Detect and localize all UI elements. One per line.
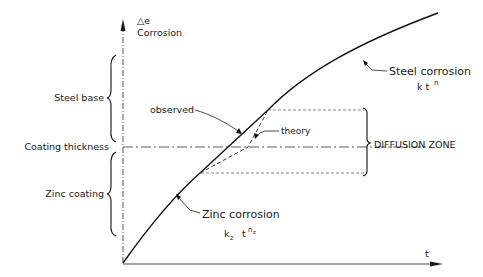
zinc-formula-k-subscript: z [230,234,234,242]
diffusion-zone-bracket [363,108,370,176]
diffusion-zone-label: DIFFUSION ZONE [374,139,456,150]
observed-label: observed [150,104,194,115]
y-axis-arrow-icon [121,19,126,31]
steel-corrosion-label: Steel corrosion [389,65,471,78]
theory-label: theory [281,126,311,136]
zinc-coating-brace [107,152,116,236]
zinc-coating-label: Zinc coating [45,188,104,199]
zinc-formula-t: t [242,228,246,239]
steel-formula-base: k t [417,81,430,92]
zinc-corrosion-label: Zinc corrosion [202,208,280,221]
corrosion-curve [123,13,438,263]
steel-base-label: Steel base [54,92,104,103]
theory-leader [256,131,279,137]
x-axis: t [123,248,443,267]
observed-leader [195,110,240,132]
corrosion-diagram: △e Corrosion t Steel base Coating thickn… [0,0,483,277]
y-axis-symbol: △e [137,15,150,26]
steel-formula-exponent: n [434,79,438,87]
coating-thickness-label: Coating thickness [24,141,109,152]
zinc-leader [178,197,200,213]
observed-arrow-icon [236,128,242,134]
y-axis-label: Corrosion [137,27,182,38]
zinc-formula-exponent-subscript: z [253,229,256,235]
x-axis-arrow-icon [430,262,443,267]
x-axis-label: t [425,248,429,259]
steel-base-brace [107,55,116,142]
zinc-formula-exponent: n [248,226,252,234]
